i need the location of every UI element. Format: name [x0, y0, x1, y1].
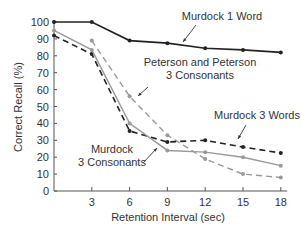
y-tick-label: 10	[37, 168, 49, 180]
x-tick-label: 9	[164, 196, 170, 208]
annotation-label: Murdock 3 Words	[214, 109, 300, 121]
x-tick-label: 15	[237, 196, 249, 208]
data-point	[128, 39, 132, 43]
data-point	[279, 151, 283, 155]
data-point	[52, 28, 56, 32]
data-point	[203, 138, 207, 142]
y-tick-label: 70	[37, 67, 49, 79]
data-point	[165, 41, 169, 45]
data-point	[203, 157, 207, 161]
data-point	[90, 20, 94, 24]
data-point	[241, 48, 245, 52]
data-point	[128, 94, 132, 98]
data-point	[241, 172, 245, 176]
y-axis-label: Correct Recall (%)	[12, 62, 24, 152]
y-tick-label: 80	[37, 50, 49, 62]
y-tick-label: 90	[37, 33, 49, 45]
data-point	[241, 145, 245, 149]
data-point	[279, 50, 283, 54]
x-tick-label: 12	[199, 196, 211, 208]
line-chart: 0102030405060708090100369121518 Murdock …	[0, 0, 301, 234]
x-axis-label: Retention Interval (sec)	[111, 211, 225, 223]
data-point	[279, 164, 283, 168]
y-tick-label: 40	[37, 117, 49, 129]
annotation-label: Murdock 1 Word	[182, 10, 263, 22]
x-tick-label: 3	[89, 196, 95, 208]
data-point	[90, 48, 94, 52]
data-point	[279, 175, 283, 179]
annotation-label: Peterson and Peterson	[144, 56, 257, 68]
data-point	[203, 46, 207, 50]
y-tick-label: 0	[43, 185, 49, 197]
x-tick-label: 6	[127, 196, 133, 208]
y-tick-label: 100	[31, 16, 49, 28]
data-point	[203, 150, 207, 154]
data-point	[52, 20, 56, 24]
annotation-label: 3 Consonants	[166, 69, 234, 81]
y-tick-label: 20	[37, 151, 49, 163]
x-tick-label: 18	[275, 196, 287, 208]
annotation-label: 3 Consonants	[78, 156, 146, 168]
data-point	[128, 121, 132, 125]
data-point	[128, 129, 132, 133]
y-tick-label: 30	[37, 134, 49, 146]
chart-canvas: 0102030405060708090100369121518 Murdock …	[0, 0, 301, 234]
data-point	[241, 155, 245, 159]
data-point	[165, 148, 169, 152]
data-point	[165, 140, 169, 144]
y-tick-label: 60	[37, 84, 49, 96]
annotation-label: Murdock	[91, 143, 134, 155]
data-point	[165, 133, 169, 137]
data-point	[90, 39, 94, 43]
y-tick-label: 50	[37, 101, 49, 113]
data-point	[52, 34, 56, 38]
